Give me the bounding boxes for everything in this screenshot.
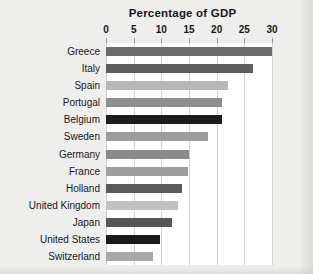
bar-chart: Percentage of GDP 051015202530 GreeceIta… <box>0 0 313 274</box>
bar-greece <box>106 47 272 56</box>
category-label-greece: Greece <box>0 46 100 57</box>
category-label-united-kingdom: United Kingdom <box>0 200 100 211</box>
bar-row: Portugal <box>0 94 313 111</box>
category-label-germany: Germany <box>0 149 100 160</box>
bar-rows: GreeceItalySpainPortugalBelgiumSwedenGer… <box>0 43 313 265</box>
bar-belgium <box>106 115 222 124</box>
bar-united-kingdom <box>106 201 178 210</box>
bar-track <box>106 163 272 180</box>
bar-row: Germany <box>0 145 313 162</box>
bar-row: Belgium <box>0 111 313 128</box>
category-label-belgium: Belgium <box>0 114 100 125</box>
bar-row: Switzerland <box>0 248 313 265</box>
bar-track <box>106 111 272 128</box>
tick-label-5: 5 <box>131 24 137 35</box>
bar-track <box>106 77 272 94</box>
bar-track <box>106 94 272 111</box>
bar-track <box>106 248 272 265</box>
category-label-japan: Japan <box>0 217 100 228</box>
bar-switzerland <box>106 252 153 261</box>
bar-track <box>106 180 272 197</box>
tick-label-20: 20 <box>211 24 222 35</box>
category-label-italy: Italy <box>0 63 100 74</box>
bar-italy <box>106 64 253 73</box>
tick-label-15: 15 <box>183 24 194 35</box>
page-bottom-shading <box>0 266 313 274</box>
bar-row: Japan <box>0 214 313 231</box>
tick-label-25: 25 <box>239 24 250 35</box>
chart-title: Percentage of GDP <box>0 7 313 19</box>
bar-track <box>106 43 272 60</box>
tick-label-10: 10 <box>156 24 167 35</box>
bar-row: Holland <box>0 180 313 197</box>
tick-label-0: 0 <box>103 24 109 35</box>
bar-japan <box>106 218 172 227</box>
bar-row: Sweden <box>0 128 313 145</box>
tick-label-30: 30 <box>266 24 277 35</box>
category-label-holland: Holland <box>0 183 100 194</box>
bar-row: United Kingdom <box>0 197 313 214</box>
bar-track <box>106 145 272 162</box>
bar-sweden <box>106 132 208 141</box>
bar-row: Greece <box>0 43 313 60</box>
category-label-sweden: Sweden <box>0 131 100 142</box>
category-label-portugal: Portugal <box>0 97 100 108</box>
category-label-france: France <box>0 166 100 177</box>
bar-spain <box>106 81 228 90</box>
category-label-united-states: United States <box>0 234 100 245</box>
bar-track <box>106 231 272 248</box>
bar-row: Italy <box>0 60 313 77</box>
bar-row: Spain <box>0 77 313 94</box>
bar-portugal <box>106 98 222 107</box>
bar-germany <box>106 150 189 159</box>
bar-track <box>106 197 272 214</box>
bar-row: France <box>0 163 313 180</box>
bar-holland <box>106 184 182 193</box>
category-label-switzerland: Switzerland <box>0 251 100 262</box>
bar-track <box>106 214 272 231</box>
bar-united-states <box>106 235 160 244</box>
bar-track <box>106 128 272 145</box>
category-label-spain: Spain <box>0 80 100 91</box>
bar-track <box>106 60 272 77</box>
bar-row: United States <box>0 231 313 248</box>
bar-france <box>106 167 188 176</box>
